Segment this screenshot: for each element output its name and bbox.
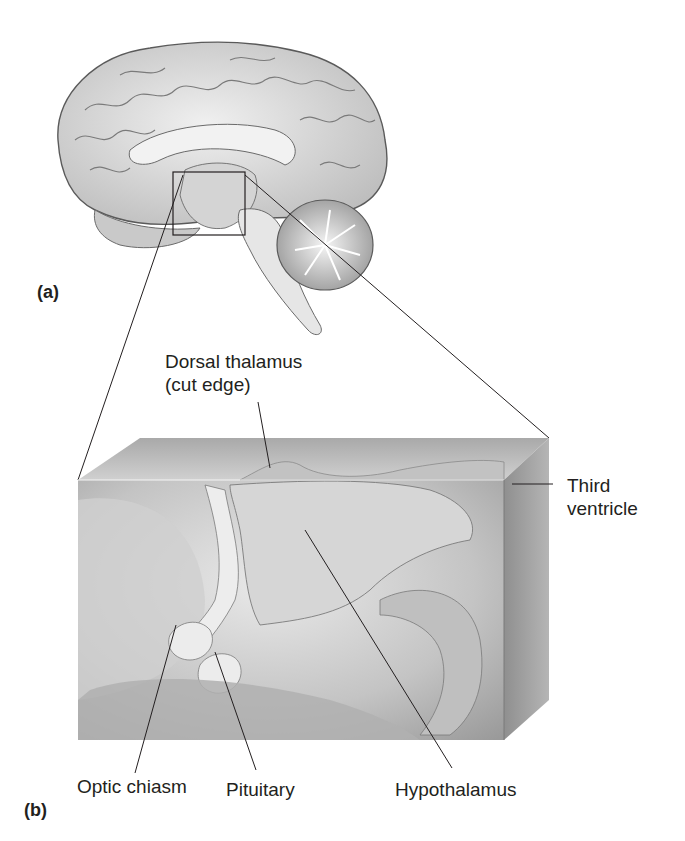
diagram-graphics — [0, 0, 685, 841]
label-dorsal-thalamus: Dorsal thalamus (cut edge) — [165, 350, 302, 396]
panel-label-b: (b) — [24, 800, 47, 821]
hypothalamus-block-illustration — [78, 438, 549, 740]
label-third-ventricle-line1: Third — [567, 474, 638, 497]
brain-midsagittal-illustration — [58, 42, 387, 334]
brain-diagram-figure: (a) (b) Dorsal thalamus (cut edge) Third… — [0, 0, 685, 841]
label-third-ventricle-line2: ventricle — [567, 497, 638, 520]
label-third-ventricle: Third ventricle — [567, 474, 638, 520]
label-dorsal-thalamus-line2: (cut edge) — [165, 373, 302, 396]
label-pituitary: Pituitary — [226, 778, 295, 801]
label-hypothalamus: Hypothalamus — [395, 778, 516, 801]
label-dorsal-thalamus-line1: Dorsal thalamus — [165, 350, 302, 373]
label-optic-chiasm: Optic chiasm — [77, 775, 187, 798]
panel-label-a: (a) — [37, 282, 59, 303]
